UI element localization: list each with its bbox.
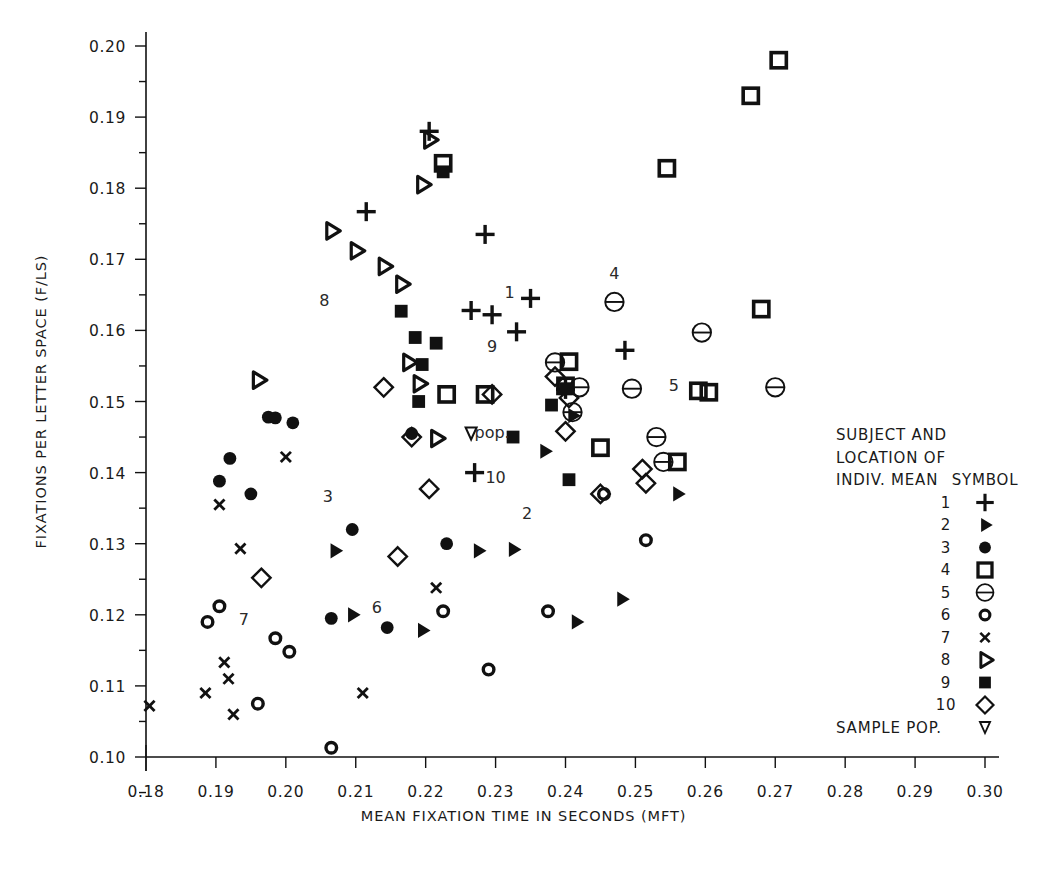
data-point-3	[286, 416, 299, 429]
x-tick-label: 0.23	[477, 783, 514, 801]
legend-row-label: 4	[941, 561, 951, 579]
legend-row-label: 3	[941, 539, 951, 557]
legend-row-label: 6	[941, 606, 951, 624]
data-point-8	[432, 430, 446, 446]
legend-symbol-x	[979, 632, 990, 643]
data-point-8	[418, 176, 432, 192]
annotation-subject-7-mean: 7	[239, 610, 249, 629]
legend-row-label: 9	[941, 674, 951, 692]
data-point-8	[414, 376, 428, 392]
axis-titles-group: MEAN FIXATION TIME IN SECONDS (MFT)FIXAT…	[33, 255, 686, 824]
annotation-subject-4-mean: 4	[609, 264, 619, 283]
data-point-1	[357, 202, 376, 221]
legend-header-symbol: SYMBOL	[952, 471, 1019, 489]
data-point-4	[771, 53, 786, 68]
x-tick-label: 0.18	[128, 783, 165, 801]
data-point-10	[389, 547, 407, 565]
data-point-3	[325, 612, 338, 625]
data-point-1	[507, 322, 526, 341]
data-point-9	[437, 165, 450, 178]
data-point-2	[348, 607, 361, 622]
annotation-subject-5-mean: 5	[669, 376, 679, 395]
data-point-8	[351, 243, 365, 259]
legend-symbol-right-triangle-open	[981, 652, 993, 667]
data-point-7	[357, 687, 369, 699]
chart-figure: 0.100.110.120.130.140.150.160.170.180.19…	[0, 0, 1059, 877]
legend-row-label: SAMPLE POP.	[836, 719, 942, 737]
legend-symbol-square-open	[978, 563, 992, 577]
x-tick-label: 0.21	[337, 783, 374, 801]
data-point-8	[379, 258, 393, 274]
data-point-6	[641, 535, 652, 546]
series-7	[143, 451, 442, 721]
data-point-10	[591, 485, 609, 503]
legend-symbol-diamond-open	[977, 697, 994, 714]
data-point-7	[213, 499, 225, 511]
data-point-5	[605, 293, 623, 311]
data-point-7	[227, 708, 239, 720]
data-point-9	[545, 399, 558, 412]
legend-symbol-square-filled	[979, 677, 991, 689]
y-tick-label: 0.17	[89, 251, 126, 269]
data-point-5	[623, 380, 641, 398]
x-tick-label: 0.28	[827, 783, 864, 801]
legend-symbol-plus	[976, 494, 993, 511]
data-point-9	[409, 331, 422, 344]
x-tick-label: 0.26	[687, 783, 724, 801]
data-point-5	[693, 323, 711, 341]
annotation-subject-1-mean: 1	[504, 283, 514, 302]
data-point-7	[234, 543, 246, 555]
legend-header-line: SUBJECT AND	[836, 426, 947, 444]
legend-row-label: 5	[941, 584, 951, 602]
y-tick-label: 0.10	[89, 749, 126, 767]
data-point-2	[509, 542, 522, 557]
data-point-3	[269, 411, 282, 424]
data-point-5	[647, 428, 665, 446]
x-tick-label: 0.29	[897, 783, 934, 801]
annotation-subject-9-mean: 9	[487, 337, 497, 356]
data-point-1	[462, 301, 481, 320]
data-point-4	[754, 301, 769, 316]
data-point-10	[252, 569, 270, 587]
y-tick-label: 0.19	[89, 109, 126, 127]
legend-row-label: 2	[941, 516, 951, 534]
data-point-6	[483, 664, 494, 675]
data-point-1	[483, 305, 502, 324]
data-point-2	[572, 614, 585, 629]
data-point-7	[218, 656, 230, 668]
legend-group: SUBJECT ANDLOCATION OFINDIV. MEANSYMBOL1…	[836, 426, 1018, 737]
legend-row-label: 8	[941, 651, 951, 669]
y-tick-label: 0.20	[89, 38, 126, 56]
y-axis-title: FIXATIONS PER LETTER SPACE (F/LS)	[33, 255, 49, 549]
annotations-group: 12345678910pop.	[239, 264, 679, 629]
annotation-subject-10-mean: 10	[485, 468, 505, 487]
data-point-10	[375, 378, 393, 396]
x-tick-label: 0.27	[757, 783, 794, 801]
legend-header-indiv-mean: INDIV. MEAN	[836, 471, 938, 489]
y-tick-label: 0.11	[89, 678, 126, 696]
data-point-9	[412, 395, 425, 408]
legend-header-line: LOCATION OF	[836, 449, 946, 467]
data-point-2	[617, 592, 630, 607]
data-point-8	[404, 354, 418, 370]
data-point-2	[331, 543, 344, 558]
data-point-4	[439, 387, 454, 402]
series-6	[202, 489, 651, 753]
annotation-subject-8-mean: 8	[319, 291, 329, 310]
legend-row-label: 10	[936, 696, 957, 714]
data-point-6	[214, 601, 225, 612]
data-point-8	[327, 223, 341, 239]
data-point-1	[615, 341, 634, 360]
data-point-7	[280, 451, 292, 463]
y-tick-label: 0.18	[89, 180, 126, 198]
data-point-1	[465, 463, 484, 482]
data-point-7	[222, 673, 234, 685]
data-point-7	[199, 687, 211, 699]
data-point-9	[563, 473, 576, 486]
x-tick-label: 0.20	[267, 783, 304, 801]
legend-symbol-circle-open	[980, 610, 990, 620]
data-point-9	[416, 358, 429, 371]
data-point-9	[430, 337, 443, 350]
data-point-3	[244, 488, 257, 501]
legend-symbol-right-triangle-filled	[981, 518, 993, 532]
